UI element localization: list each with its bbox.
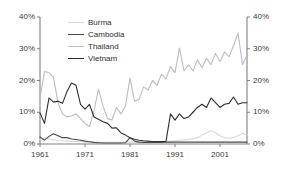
y-axis-left-tick-label: 0% — [4, 140, 35, 148]
legend-swatch-vietnam — [68, 58, 84, 59]
line-chart: 0%10%20%30%40% 0%10%20%30%40% 1961197119… — [0, 0, 290, 178]
legend-label: Thailand — [88, 43, 119, 51]
x-axis-tick-label: 1971 — [65, 151, 105, 159]
legend-swatch-cambodia — [68, 34, 84, 35]
y-axis-right-tick-label: 10% — [253, 108, 286, 116]
y-axis-left-tick-label: 40% — [4, 13, 35, 21]
legend-swatch-thailand — [68, 46, 84, 47]
legend: BurmaCambodiaThailandVietnam — [68, 17, 124, 64]
legend-item-burma[interactable]: Burma — [68, 17, 124, 28]
legend-swatch-burma — [68, 22, 84, 23]
x-axis-tick-label: 1981 — [110, 151, 150, 159]
x-axis-tick-label: 2001 — [200, 151, 240, 159]
y-axis-left-tick-label: 10% — [4, 108, 35, 116]
y-axis-right-tick-label: 40% — [253, 13, 286, 21]
legend-item-vietnam[interactable]: Vietnam — [68, 53, 124, 64]
legend-item-thailand[interactable]: Thailand — [68, 41, 124, 52]
y-axis-left-tick-label: 30% — [4, 45, 35, 53]
legend-label: Cambodia — [88, 31, 124, 39]
legend-label: Burma — [88, 19, 112, 27]
y-axis-right-tick-label: 30% — [253, 45, 286, 53]
legend-label: Vietnam — [88, 55, 117, 63]
y-axis-left-tick-label: 20% — [4, 77, 35, 85]
x-axis-tick-label: 1991 — [155, 151, 195, 159]
legend-item-cambodia[interactable]: Cambodia — [68, 29, 124, 40]
y-axis-right-tick-label: 20% — [253, 77, 286, 85]
y-axis-right-tick-label: 0% — [253, 140, 286, 148]
x-axis-tick-label: 1961 — [20, 151, 60, 159]
